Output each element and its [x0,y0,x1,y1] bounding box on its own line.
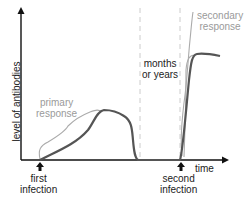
y-axis-label: level of antibodies [11,52,22,152]
secondary-response-label: secondary response [197,10,243,32]
primary-response-label: primary response [36,97,77,119]
first-infection-label: first infection [20,173,57,195]
x-axis-arrow-icon [222,157,229,164]
gap-label: months or years [142,58,178,80]
y-axis-arrow-icon [18,7,25,14]
second-infection-label: second infection [160,173,197,195]
second-infection-arrow-icon [177,162,185,171]
x-axis-label: time [195,163,214,174]
first-infection-arrow-icon [36,162,44,171]
